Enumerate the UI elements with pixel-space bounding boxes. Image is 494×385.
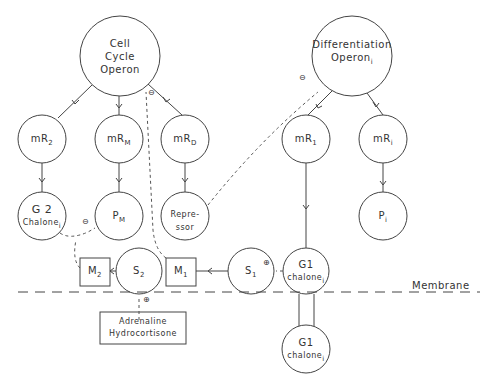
repressor-label: Repre- ssor: [160, 208, 210, 234]
pi-label: Pi: [363, 209, 403, 227]
m2-label: M2: [80, 264, 110, 282]
activate-sign-icon: ⊕: [263, 256, 270, 269]
g1-chalone-outer-label: G1 chalonei: [281, 336, 331, 366]
mrd-label: mRD: [165, 132, 205, 150]
hormones-label: Adrenaline Hydrocortisone: [100, 316, 186, 340]
membrane-label: Membrane: [412, 279, 470, 292]
activate-sign-icon: ⊕: [143, 293, 150, 306]
mri-label: mRi: [363, 132, 403, 150]
cell-cycle-operon-label: Cell Cycle Operon: [90, 37, 150, 76]
g1-chalone-inner-label: G1 chalonei: [281, 258, 331, 288]
pm-label: PM: [99, 209, 139, 227]
s2-label: S2: [119, 264, 159, 282]
diagram-canvas: [0, 0, 494, 385]
g2-chalone-label: G 2 Chalonei: [17, 203, 67, 233]
mr1-label: mR1: [286, 132, 326, 150]
differentiation-operon-label: Differentiation Operoni: [312, 38, 392, 69]
inhibit-sign-icon: ⊖: [82, 215, 89, 228]
inhibit-sign-icon: ⊖: [148, 86, 155, 99]
mr2-label: mR2: [22, 132, 62, 150]
m1-label: M1: [166, 264, 196, 282]
inhibit-sign-icon: ⊖: [299, 71, 306, 84]
mrm-label: mRM: [99, 132, 139, 150]
